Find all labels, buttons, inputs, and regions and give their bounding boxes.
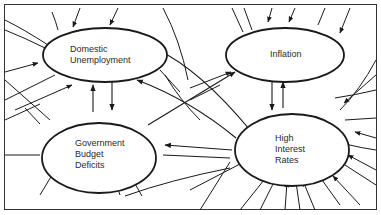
edge-rates-to-deficits-2	[163, 155, 230, 158]
label-line: Interest	[275, 144, 305, 155]
label-line: Domestic	[70, 44, 131, 55]
label-line: High	[275, 133, 305, 144]
label-line: Government	[75, 138, 125, 149]
label-line: Unemployment	[70, 55, 131, 66]
label-high-interest-rates: High Interest Rates	[275, 133, 305, 166]
diagram-frame: Domestic Unemployment Inflation Governme…	[0, 0, 381, 215]
label-government-budget-deficits: Government Budget Deficits	[75, 138, 125, 171]
label-domestic-unemployment: Domestic Unemployment	[70, 44, 131, 66]
label-line: Rates	[275, 155, 305, 166]
label-inflation: Inflation	[270, 49, 302, 60]
label-line: Inflation	[270, 49, 302, 60]
edge-rates-to-deficits	[165, 145, 232, 150]
label-line: Budget	[75, 149, 125, 160]
diagram-canvas	[0, 0, 381, 215]
label-line: Deficits	[75, 160, 125, 171]
edge-rates-to-unemployment	[137, 80, 236, 138]
